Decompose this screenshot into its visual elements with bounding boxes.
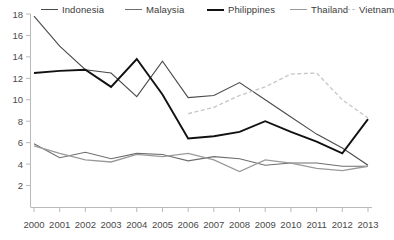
x-axis-tick-label: 2009 (255, 219, 276, 230)
x-axis-tick-label: 2008 (229, 219, 250, 230)
x-axis-tick-label: 2005 (152, 219, 173, 230)
y-axis-tick-label: 12 (12, 73, 23, 84)
x-axis-tick-label: 2010 (280, 219, 301, 230)
y-axis-tick-label: 6 (18, 137, 23, 148)
x-axis-tick-label: 2001 (49, 219, 70, 230)
y-axis-tick-label: 10 (12, 94, 23, 105)
x-axis-tick-label: 2006 (178, 219, 199, 230)
y-axis: 24681012141618 (12, 9, 30, 208)
x-axis-tick-label: 2003 (101, 219, 122, 230)
y-axis-tick-label: 2 (18, 180, 23, 191)
x-axis-tick-label: 2004 (126, 219, 147, 230)
x-axis-tick-label: 2013 (357, 219, 378, 230)
y-axis-tick-label: 18 (12, 9, 23, 20)
x-axis-tick-label: 2007 (203, 219, 224, 230)
x-axis: 2000200120022003200420052006200720082009… (23, 208, 378, 231)
y-axis-tick-label: 16 (12, 30, 23, 41)
y-axis-tick-label: 8 (18, 116, 23, 127)
y-axis-tick-label: 14 (12, 51, 23, 62)
series-line-philippines (34, 59, 368, 153)
x-axis-tick-label: 2000 (23, 219, 44, 230)
x-axis-tick-label: 2011 (306, 219, 326, 230)
x-axis-tick-label: 2012 (332, 219, 353, 230)
x-axis-tick-label: 2002 (75, 219, 96, 230)
data-series-group (34, 16, 368, 171)
series-line-malaysia (34, 144, 368, 167)
series-line-vietnam (188, 73, 368, 118)
y-axis-tick-label: 4 (18, 159, 23, 170)
